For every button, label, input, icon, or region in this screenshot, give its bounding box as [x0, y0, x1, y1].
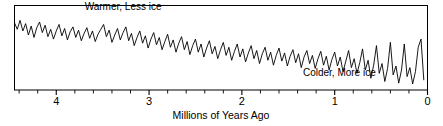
- axis-tick-label: 1: [332, 95, 338, 107]
- chart-canvas: 43210 Warmer, Less iceColder, More ice M…: [0, 0, 443, 126]
- annotation-warmer-less-ice: Warmer, Less ice: [85, 1, 162, 12]
- axis-tick-label: 2: [239, 95, 245, 107]
- axis-tick-label: 0: [424, 95, 430, 107]
- axis-tick-label: 4: [53, 95, 59, 107]
- ice-volume-chart: 43210 Warmer, Less iceColder, More ice M…: [0, 0, 443, 126]
- chart-background: [0, 0, 443, 126]
- axis-tick-label: 3: [146, 95, 152, 107]
- annotation-colder-more-ice: Colder, More ice: [303, 67, 376, 78]
- x-axis-title: Millions of Years Ago: [173, 109, 270, 121]
